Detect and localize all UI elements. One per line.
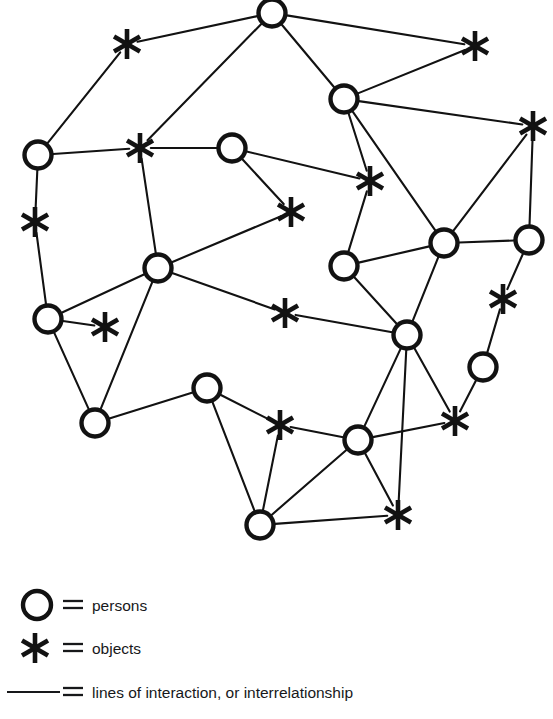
interaction-line [247, 151, 360, 178]
person-node[interactable] [194, 375, 221, 402]
legend-label: persons [92, 597, 147, 614]
interaction-line [296, 315, 393, 332]
interaction-line [172, 273, 275, 309]
person-node[interactable] [431, 230, 458, 257]
interaction-line [36, 233, 46, 304]
object-node[interactable] [22, 207, 48, 237]
object-node[interactable] [442, 406, 468, 436]
interaction-line [138, 16, 258, 42]
person-node[interactable] [331, 253, 358, 280]
person-node[interactable] [345, 427, 372, 454]
person-node[interactable] [331, 86, 358, 113]
interaction-line [373, 423, 445, 437]
object-node[interactable] [490, 284, 516, 314]
interaction-line [282, 25, 335, 88]
object-node[interactable] [385, 500, 411, 530]
interaction-line [291, 427, 344, 437]
interaction-line [287, 15, 465, 44]
person-node[interactable] [25, 142, 52, 169]
person-node[interactable] [394, 322, 421, 349]
interaction-line [353, 111, 436, 230]
legend-layer: personsobjectslines of interaction, or i… [7, 591, 353, 701]
person-node[interactable] [470, 354, 497, 381]
interaction-line [101, 282, 153, 409]
interaction-line [399, 350, 407, 504]
interaction-line [487, 309, 500, 352]
interaction-line [530, 137, 533, 225]
object-node[interactable] [267, 410, 293, 440]
interaction-line [459, 241, 514, 243]
interaction-line [275, 516, 387, 524]
legend-item-persons: persons [23, 591, 147, 619]
interaction-line [364, 349, 400, 427]
interaction-line [414, 348, 449, 411]
person-node[interactable] [219, 135, 246, 162]
interaction-line [62, 274, 145, 312]
interaction-line [453, 135, 526, 231]
interaction-line [507, 254, 523, 289]
interaction-line [365, 453, 393, 505]
interaction-line [242, 159, 284, 204]
interaction-line [53, 149, 129, 154]
interaction-line [359, 101, 522, 124]
circle-icon [23, 591, 51, 619]
object-node[interactable] [357, 166, 383, 196]
interaction-line [349, 113, 367, 170]
interaction-line [35, 170, 37, 211]
person-node[interactable] [516, 227, 543, 254]
interaction-line [271, 450, 346, 515]
network-canvas: personsobjectslines of interaction, or i… [0, 0, 553, 719]
interaction-line [460, 380, 476, 411]
person-node[interactable] [145, 255, 172, 282]
interaction-line [148, 24, 262, 141]
interaction-line [212, 402, 254, 511]
legend-label: objects [92, 640, 141, 657]
person-node[interactable] [35, 306, 62, 333]
object-node[interactable] [92, 312, 118, 342]
interaction-line [47, 52, 120, 143]
sociogram-figure: personsobjectslines of interaction, or i… [0, 0, 553, 719]
person-node[interactable] [82, 410, 109, 437]
legend-item-objects: objects [22, 633, 141, 663]
interaction-line [354, 277, 397, 324]
object-node[interactable] [272, 298, 298, 328]
object-node[interactable] [462, 31, 488, 61]
interaction-line [54, 333, 89, 410]
person-node[interactable] [247, 512, 274, 539]
person-node[interactable] [259, 0, 286, 27]
interaction-line [358, 50, 465, 93]
interaction-line [63, 321, 94, 325]
legend-item-lines: lines of interaction, or interrelationsh… [7, 684, 353, 701]
legend-label: lines of interaction, or interrelationsh… [92, 684, 353, 701]
interaction-line [172, 216, 281, 262]
interaction-line [413, 257, 439, 321]
interaction-line [142, 159, 156, 253]
interaction-line [109, 392, 192, 418]
interaction-line [348, 191, 366, 251]
asterisk-icon [22, 633, 48, 663]
interaction-line [263, 436, 278, 511]
interaction-line [220, 395, 270, 420]
edge-layer [35, 15, 532, 524]
node-layer [22, 0, 546, 539]
interaction-line [359, 246, 430, 262]
